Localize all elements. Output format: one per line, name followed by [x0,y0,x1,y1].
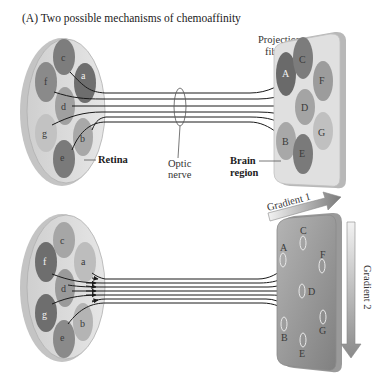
svg-text:G: G [318,127,325,138]
svg-text:C: C [300,225,307,236]
svg-text:D: D [301,102,308,113]
svg-text:G: G [319,325,326,336]
figure-title: (A) Two possible mechanisms of chemoaffi… [22,12,241,24]
svg-text:B: B [282,136,289,147]
svg-text:e: e [60,152,65,163]
svg-text:a: a [81,70,86,81]
svg-text:C: C [299,54,306,65]
optic-nerve-label-2: nerve [168,169,192,180]
svg-text:F: F [320,249,326,260]
svg-text:D: D [308,286,315,297]
retina-label: Retina [98,154,128,165]
svg-text:b: b [80,318,85,329]
svg-text:g: g [42,309,47,320]
svg-text:d: d [61,101,66,112]
svg-text:A: A [282,68,290,79]
bottom-panel: c a f d g b e [20,191,373,373]
optic-nerve-ring [174,88,186,126]
diagram-canvas: c a f d g b e Optic [0,0,383,381]
svg-text:E: E [299,148,305,159]
svg-text:F: F [319,75,325,86]
brain-region-bottom: A C F D G B E [277,213,342,372]
svg-text:g: g [42,128,47,139]
svg-text:d: d [61,283,66,294]
brain-region-top: A C F D G B E [274,32,346,188]
brain-label-2: region [230,167,259,178]
gradient-2-arrow: Gradient 2 [341,222,373,358]
retina-disc-bottom: c a f d g b e [20,214,105,362]
chemoaffinity-figure: (A) Two possible mechanisms of chemoaffi… [0,0,383,381]
svg-text:c: c [61,52,66,63]
optic-nerve-label-1: Optic [168,158,192,169]
svg-text:A: A [280,242,288,253]
top-panel: c a f d g b e Optic [20,32,346,188]
svg-text:c: c [60,235,65,246]
svg-text:e: e [60,332,65,343]
brain-label-1: Brain [230,155,256,166]
svg-text:E: E [299,348,305,359]
svg-text:a: a [81,256,86,267]
svg-text:B: B [281,332,288,343]
gradient-2-label: Gradient 2 [362,265,373,310]
